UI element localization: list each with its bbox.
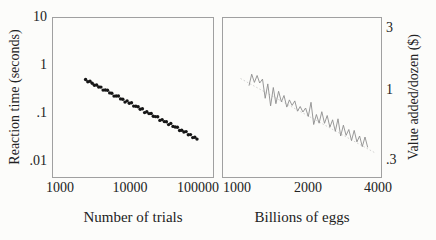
scatter-point [195,137,198,140]
right-y-axis-label: Value added/dozen ($) [405,2,423,192]
data-line [249,74,368,147]
scatter-point [184,130,187,133]
left-x-tick-10000: 10000 [95,181,165,195]
scatter-point [99,85,102,88]
right-x-tick-1000: 1000 [202,181,272,195]
right-x-axis-label: Billions of eggs [202,208,402,226]
right-plot-frame [223,18,382,178]
scatter-point [169,122,172,125]
scatter-point [141,107,144,110]
scatter-point [121,98,124,101]
scatter-point [165,120,168,123]
reaction-time-plot-area [52,17,214,178]
left-y-axis-label: Reaction time (seconds) [6,2,24,192]
scatter-point [176,126,179,129]
scatter-point [106,89,109,92]
two-panel-log-log-figure: 10 1 .1 .01 1000 10000 100000 Number of … [0,0,436,240]
right-x-tick-2000: 2000 [273,181,343,195]
right-x-tick-4000: 4000 [343,181,413,195]
scatter-point [117,94,120,97]
left-x-tick-1000: 1000 [25,181,95,195]
egg-value-plot-area [222,17,382,178]
scatter-point [150,112,153,115]
scatter-point [130,101,133,104]
scatter-point [189,133,192,136]
left-plot-frame [53,18,214,178]
scatter-point [156,115,159,118]
scatter-point [110,92,113,95]
